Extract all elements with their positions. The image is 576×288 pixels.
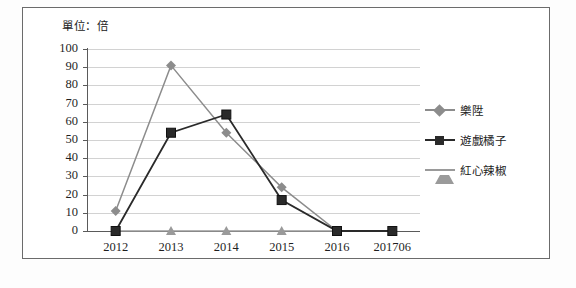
gridline [88,158,420,159]
legend-label-chili: 紅心辣椒 [455,162,506,178]
gridline [88,140,420,141]
unit-axis-label: 單位：倍 [62,17,108,33]
chart-legend: 樂陞 遊戲橘子 紅心辣椒 [425,95,543,185]
x-tick-label: 2014 [195,240,257,255]
gridline [88,67,420,68]
y-tick-mark [83,49,88,50]
y-tick-mark [83,213,88,214]
legend-label-gamania: 遊戲橘子 [455,132,506,148]
y-tick-mark [83,140,88,141]
x-tick-label: 201706 [361,240,423,255]
square-marker-icon [425,133,455,147]
y-tick-label: 70 [44,97,78,109]
y-tick-mark [83,176,88,177]
gridline [88,195,420,196]
y-tick-mark [83,85,88,86]
y-tick-label: 40 [44,151,78,163]
gridline [88,104,420,105]
y-tick-label: 20 [44,188,78,200]
y-tick-mark [83,67,88,68]
gridline [88,49,420,50]
gridline [88,85,420,86]
x-tick-label: 2015 [251,240,313,255]
gridline [88,122,420,123]
y-tick-mark [83,104,88,105]
y-tick-label: 80 [44,78,78,90]
chart-page: 單位：倍 樂陞 遊戲橘子 紅心辣椒 10090807060504 [0,0,576,288]
y-tick-mark [83,195,88,196]
y-tick-mark [83,122,88,123]
legend-item-gamania[interactable]: 遊戲橘子 [425,125,543,155]
y-tick-label: 100 [44,42,78,54]
y-tick-mark [83,158,88,159]
gridline [88,176,420,177]
legend-item-leshin[interactable]: 樂陞 [425,95,543,125]
triangle-marker-icon [425,163,455,177]
plot-area [88,49,420,231]
y-tick-mark [83,231,88,232]
y-tick-label: 10 [44,206,78,218]
figure-caption [0,272,576,288]
y-tick-label: 0 [44,224,78,236]
legend-label-leshin: 樂陞 [455,102,483,118]
diamond-marker-icon [425,103,455,117]
gridline [88,231,420,232]
y-tick-label: 30 [44,169,78,181]
gridline [88,213,420,214]
y-tick-label: 90 [44,60,78,72]
legend-item-chili[interactable]: 紅心辣椒 [425,155,543,185]
x-tick-label: 2016 [306,240,368,255]
x-tick-label: 2013 [140,240,202,255]
x-tick-label: 2012 [85,240,147,255]
y-tick-label: 50 [44,133,78,145]
y-tick-label: 60 [44,115,78,127]
